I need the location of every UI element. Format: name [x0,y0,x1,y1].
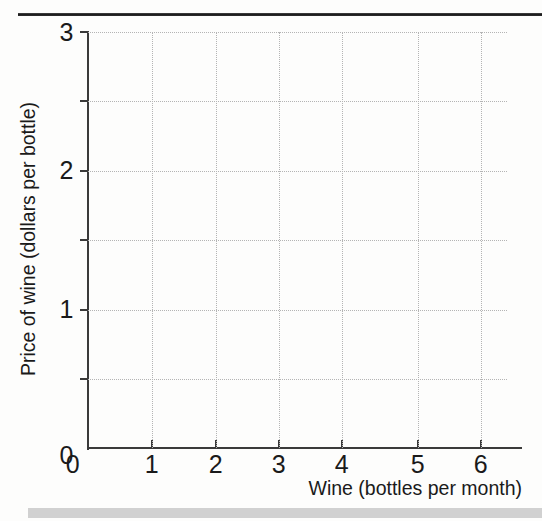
gridline-x-6 [481,32,482,448]
wine-price-quantity-figure: 3 2 1 0 0 1 2 3 4 5 6 Price of wine (dol… [0,0,542,521]
x-tick-label-0: 0 [58,452,88,477]
x-tick-label-1: 1 [137,452,167,477]
gridline-x-5 [418,32,419,448]
x-tick-label-2: 2 [201,452,231,477]
y-axis-title: Price of wine (dollars per bottle) [17,39,39,439]
gridline-x-2 [216,32,217,448]
x-tick-label-4: 4 [327,452,357,477]
gridline-y-2 [88,171,507,172]
x-axis-title: Wine (bottles per month) [232,477,522,499]
gridline-x-3 [279,32,280,448]
page-top-rule [18,13,542,16]
gridline-y-3 [88,32,507,33]
plot-area [88,32,507,448]
gridline-y-1 [88,310,507,311]
gridline-x-1 [152,32,153,448]
y-tick-label-2: 2 [48,158,74,183]
y-tick-label-1: 1 [48,297,74,322]
x-tick-label-3: 3 [264,452,294,477]
x-tick-label-6: 6 [466,452,496,477]
x-tick-label-5: 5 [403,452,433,477]
gridline-y-2-5 [88,101,507,102]
page-bottom-band [28,508,542,518]
gridline-x-4 [342,32,343,448]
gridline-y-0-5 [88,379,507,380]
y-tick-label-3: 3 [48,20,74,45]
gridline-y-1-5 [88,240,507,241]
